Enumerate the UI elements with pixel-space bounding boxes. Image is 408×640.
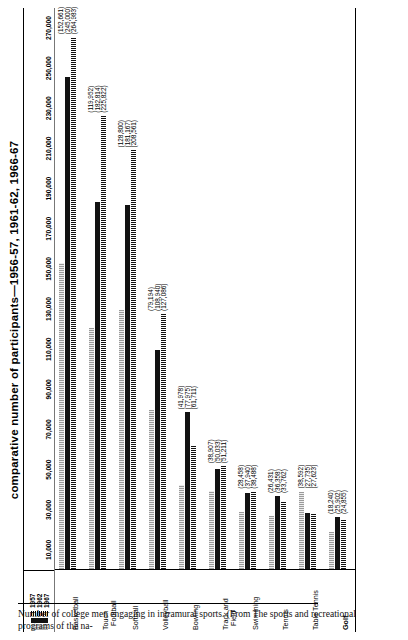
x-tick-label: 210,000 — [45, 137, 52, 161]
value-label-1967: (38,488) — [251, 465, 258, 489]
rotated-chart-container: comparative number of participants—1956-… — [0, 0, 408, 640]
caption-rule — [18, 603, 318, 604]
bar-group — [209, 466, 226, 569]
bar-1967 — [311, 514, 316, 569]
bottom-rule — [355, 8, 356, 632]
bar-1967 — [221, 466, 226, 569]
chart-header-band: 1957 1962 1967 10,00030,00050,00070,0009… — [24, 8, 54, 632]
value-label-1967: (225,822) — [101, 85, 108, 112]
figure-caption-block: Number of college men engaging in intram… — [0, 603, 408, 640]
bar-1957 — [239, 512, 244, 569]
bar-1962 — [245, 493, 250, 569]
value-labels: (28,458)(37,940)(38,488) — [238, 465, 258, 489]
value-labels: (41,978)(77,975)(61,711) — [178, 386, 198, 410]
bar-group — [329, 517, 346, 569]
x-tick-label: 10,000 — [45, 540, 52, 560]
x-tick-label: 170,000 — [45, 217, 52, 241]
bar-1967 — [251, 492, 256, 569]
value-labels: (119,952)(182,814)(225,822) — [88, 85, 108, 112]
bar-1962 — [155, 350, 160, 569]
bar-1957 — [119, 310, 124, 569]
x-tick-label: 230,000 — [45, 96, 52, 120]
value-labels: (38,907)(50,033)(51,211) — [208, 439, 228, 463]
chart-figure: comparative number of participants—1956-… — [0, 0, 408, 640]
bar-1957 — [59, 263, 64, 569]
bar-1967 — [71, 37, 76, 569]
bar-group — [59, 37, 76, 569]
bar-1967 — [341, 519, 346, 569]
bar-1957 — [329, 532, 334, 569]
x-tick-label: 250,000 — [45, 56, 52, 80]
value-labels: (79,194)(108,940)(127,086) — [148, 284, 168, 311]
bar-group — [89, 116, 106, 569]
value-label-1967: (51,211) — [221, 439, 228, 463]
chart-page: comparative number of participants—1956-… — [0, 0, 408, 640]
value-label-1967: (208,561) — [131, 120, 138, 147]
bar-1967 — [161, 314, 166, 569]
x-tick-label: 90,000 — [45, 379, 52, 399]
x-tick-label: 150,000 — [45, 257, 52, 281]
bar-group — [239, 492, 256, 569]
x-tick-label: 110,000 — [45, 337, 52, 360]
bar-1962 — [335, 517, 340, 569]
value-labels: (26,431)(36,358)(33,762) — [268, 469, 288, 493]
bar-1957 — [149, 410, 154, 569]
x-tick-label: 270,000 — [45, 16, 52, 40]
value-labels: (18,240)(25,902)(24,855) — [328, 490, 348, 514]
bar-1967 — [101, 116, 106, 569]
value-label-1967: (61,711) — [191, 386, 198, 410]
x-tick-label: 190,000 — [45, 177, 52, 201]
x-tick-label: 70,000 — [45, 419, 52, 439]
value-labels: (152,661)(245,000)(264,983) — [58, 7, 78, 34]
bar-group — [179, 413, 196, 570]
bar-group — [149, 314, 166, 569]
bar-1962 — [125, 205, 130, 569]
bar-1967 — [281, 501, 286, 569]
bar-1967 — [131, 150, 136, 569]
value-label-1967: (127,086) — [161, 284, 168, 311]
bar-group — [119, 150, 136, 569]
plot-area: (152,661)(245,000)(264,983)(119,952)(182… — [55, 8, 355, 569]
x-tick-label: 130,000 — [45, 297, 52, 321]
bar-1962 — [65, 77, 70, 569]
value-labels: (38,592)(27,735)(27,623) — [298, 465, 318, 489]
bar-1957 — [89, 328, 94, 569]
bar-1957 — [209, 491, 214, 569]
bar-group — [299, 492, 316, 569]
bar-1962 — [95, 202, 100, 569]
value-label-1967: (27,623) — [311, 465, 318, 489]
chart-title: comparative number of participants—1956-… — [8, 8, 20, 632]
bar-1957 — [179, 485, 184, 569]
x-tick-label: 30,000 — [45, 500, 52, 520]
value-label-1967: (264,983) — [71, 7, 78, 34]
figure-caption: Number of college men engaging in intram… — [0, 608, 408, 640]
value-label-1967: (33,762) — [281, 469, 288, 493]
plot-band: BasketballTouch FootballSoftballVolleyba… — [55, 8, 355, 632]
bar-1962 — [275, 496, 280, 569]
value-labels: (128,800)(181,167)(208,561) — [118, 120, 138, 147]
bar-1962 — [185, 413, 190, 570]
bar-1957 — [269, 516, 274, 569]
bar-1962 — [305, 513, 310, 569]
x-axis-scale: 10,00030,00050,00070,00090,000110,000130… — [24, 8, 54, 570]
bar-1962 — [215, 469, 220, 569]
value-label-1967: (24,855) — [341, 490, 348, 514]
x-tick-label: 50,000 — [45, 460, 52, 480]
bar-1967 — [191, 445, 196, 569]
bar-1957 — [299, 492, 304, 569]
bar-group — [269, 496, 286, 569]
